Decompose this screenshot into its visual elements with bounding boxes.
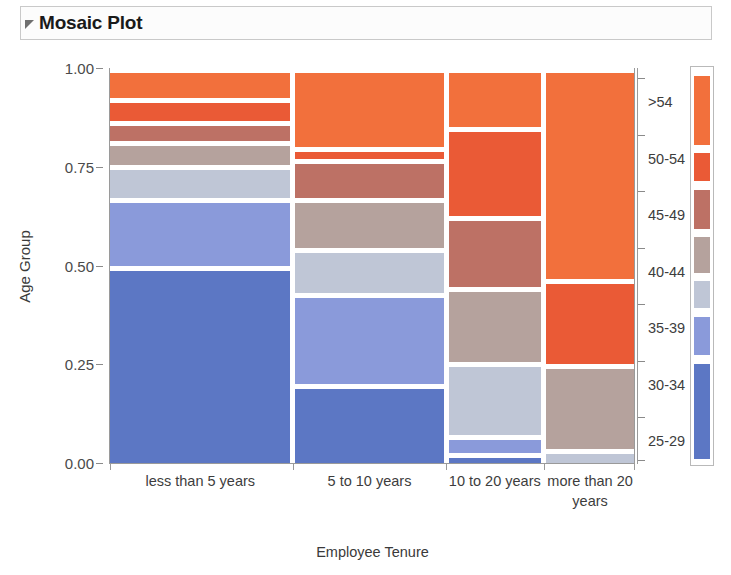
legend-swatch[interactable] [694, 237, 710, 273]
legend-label: 30-34 [648, 377, 685, 393]
mosaic-cell[interactable] [110, 73, 290, 98]
x-axis-tick-labels: less than 5 years5 to 10 years10 to 20 y… [110, 464, 635, 534]
mosaic-cell[interactable] [110, 203, 290, 265]
mosaic-cell[interactable] [295, 73, 443, 147]
x-axis-title: Employee Tenure [110, 544, 635, 560]
y-tick-label: 1.00 [48, 60, 94, 77]
legend-swatch[interactable] [694, 76, 710, 145]
mosaic-cell[interactable] [546, 454, 634, 463]
mosaic-cell[interactable] [449, 440, 542, 453]
x-tick-mark [293, 464, 294, 470]
legend-swatch[interactable] [694, 281, 710, 308]
mosaic-cell[interactable] [546, 284, 634, 364]
mosaic-column [110, 68, 290, 463]
y-tick-label: 0.00 [48, 455, 94, 472]
mosaic-cell[interactable] [295, 253, 443, 293]
y-axis-tick-labels: 0.000.250.500.751.00 [46, 48, 94, 478]
mosaic-cell[interactable] [110, 271, 290, 464]
page-title: Mosaic Plot [39, 12, 142, 34]
legend-tick-mark [638, 248, 645, 249]
mosaic-cell[interactable] [295, 164, 443, 199]
x-tick-label: 5 to 10 years [295, 472, 443, 492]
mosaic-column [546, 68, 634, 463]
mosaic-column [295, 68, 443, 463]
legend-tick-mark [638, 304, 645, 305]
x-tick-label: more than 20 years [546, 472, 634, 511]
x-tick-label: 10 to 20 years [449, 472, 542, 492]
mosaic-cell[interactable] [110, 170, 290, 199]
mosaic-cell[interactable] [295, 298, 443, 384]
x-tick-mark [544, 464, 545, 470]
mosaic-cell[interactable] [449, 73, 542, 127]
y-tick-mark [96, 463, 103, 464]
legend-tick-mark [638, 417, 645, 418]
plot-right-edge [634, 68, 635, 464]
legend-tick-mark [638, 135, 645, 136]
mosaic-plot-area [110, 68, 634, 463]
legend-swatch[interactable] [694, 364, 710, 459]
y-tick-mark [96, 167, 103, 168]
mosaic-cell[interactable] [295, 203, 443, 247]
legend-tick-mark [638, 361, 645, 362]
legend-swatch[interactable] [694, 317, 710, 356]
legend-label: 50-54 [648, 151, 685, 167]
legend-label: 25-29 [648, 433, 685, 449]
y-tick-label: 0.50 [48, 257, 94, 274]
legend-label: 45-49 [648, 207, 685, 223]
mosaic-cell[interactable] [546, 369, 634, 449]
y-tick-label: 0.75 [48, 158, 94, 175]
mosaic-cell[interactable] [546, 73, 634, 279]
legend-label: 35-39 [648, 320, 685, 336]
legend-tick-mark [638, 460, 645, 461]
legend-swatch[interactable] [694, 190, 710, 229]
mosaic-cell[interactable] [110, 146, 290, 165]
x-tick-mark [110, 464, 111, 470]
legend-axis-line [637, 68, 638, 464]
panel-title-bar[interactable]: Mosaic Plot [20, 6, 712, 40]
mosaic-column [449, 68, 542, 463]
mosaic-cell[interactable] [110, 126, 290, 141]
legend-swatch[interactable] [694, 153, 710, 181]
x-tick-mark [446, 464, 447, 470]
triangle-collapse-icon[interactable] [25, 20, 34, 29]
x-tick-mark [634, 464, 635, 470]
legend-color-bar[interactable] [690, 66, 714, 466]
y-tick-mark [96, 68, 103, 69]
y-axis-title: Age Group [16, 207, 33, 327]
legend-tick-mark [638, 78, 645, 79]
mosaic-cell[interactable] [449, 132, 542, 216]
mosaic-cell[interactable] [449, 221, 542, 287]
y-tick-mark [96, 266, 103, 267]
legend-label: 40-44 [648, 264, 685, 280]
y-tick-mark [96, 364, 103, 365]
mosaic-cell[interactable] [110, 103, 290, 122]
mosaic-cell[interactable] [449, 367, 542, 435]
mosaic-cell[interactable] [295, 389, 443, 463]
x-tick-label: less than 5 years [110, 472, 290, 492]
mosaic-chart: Age Group 0.000.250.500.751.00 less than… [0, 48, 731, 575]
mosaic-cell[interactable] [449, 292, 542, 362]
y-tick-label: 0.25 [48, 356, 94, 373]
mosaic-cell[interactable] [295, 152, 443, 159]
legend-tick-mark [638, 191, 645, 192]
legend-label: >54 [648, 94, 673, 110]
mosaic-cell[interactable] [449, 458, 542, 463]
